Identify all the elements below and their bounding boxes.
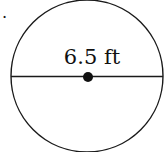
problem-number-marker: . bbox=[2, 3, 7, 22]
circle-diagram: . 6.5 ft bbox=[0, 0, 166, 152]
center-point bbox=[83, 72, 93, 82]
diameter-label: 6.5 ft bbox=[64, 45, 121, 69]
